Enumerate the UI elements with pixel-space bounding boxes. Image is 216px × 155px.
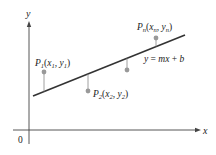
x-axis-label: x bbox=[202, 125, 208, 136]
equation-label: y = mx + b bbox=[143, 54, 185, 64]
label-pn: Pn(xn, yn) bbox=[136, 22, 172, 33]
point-pn bbox=[154, 36, 159, 41]
label-p1: P1(x1, y1) bbox=[34, 58, 70, 69]
y-axis-arrow-icon bbox=[27, 21, 31, 27]
point-p2 bbox=[86, 89, 91, 94]
origin-label: 0 bbox=[18, 135, 23, 145]
x-axis-arrow-icon bbox=[195, 128, 201, 132]
regression-diagram: x y 0 P1(x1, y1) P2(x2, y2) Pn(xn, yn) y… bbox=[0, 0, 216, 155]
point-p3 bbox=[125, 68, 130, 73]
axes: x y 0 bbox=[13, 8, 208, 145]
point-p1 bbox=[42, 70, 47, 75]
label-p2: P2(x2, y2) bbox=[92, 89, 128, 100]
y-axis-label: y bbox=[25, 8, 31, 19]
